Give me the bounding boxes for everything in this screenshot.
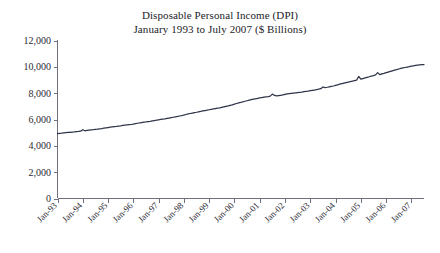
y-axis-tick-label: 10,000 xyxy=(24,61,52,72)
y-axis-tick-label: 8,000 xyxy=(29,88,52,99)
x-axis-tick-label: Jan-99 xyxy=(187,200,211,224)
x-axis-tick-label: Jan-94 xyxy=(60,200,84,224)
x-axis-tick-label: Jan-97 xyxy=(136,200,160,224)
x-axis-tick-label: Jan-03 xyxy=(288,200,312,224)
dpi-line-chart: Disposable Personal Income (DPI) January… xyxy=(0,0,440,253)
y-axis-labels: 12,00010,0008,0006,0004,0002,0000 xyxy=(24,35,52,204)
y-axis-tick-label: 6,000 xyxy=(29,114,52,125)
x-axis-tick-label: Jan-02 xyxy=(262,200,286,224)
chart-svg: 12,00010,0008,0006,0004,0002,0000 Jan-93… xyxy=(0,0,440,253)
x-axis-tick-label: Jan-95 xyxy=(85,200,109,224)
y-axis-tick-label: 4,000 xyxy=(29,140,52,151)
x-axis-tick-label: Jan-07 xyxy=(389,200,413,224)
y-axis-tick-label: 12,000 xyxy=(24,35,52,46)
y-axis-tick-label: 2,000 xyxy=(29,167,52,178)
y-axis-ticks xyxy=(54,42,58,200)
dpi-series-line xyxy=(58,65,425,134)
x-axis-labels: Jan-93Jan-94Jan-95Jan-96Jan-97Jan-98Jan-… xyxy=(35,200,413,224)
x-axis-tick-label: Jan-05 xyxy=(338,200,362,224)
x-axis-tick-label: Jan-98 xyxy=(161,200,185,224)
x-axis-tick-label: Jan-06 xyxy=(363,200,387,224)
x-axis-tick-label: Jan-04 xyxy=(313,200,337,224)
x-axis-ticks xyxy=(59,199,412,203)
x-axis-tick-label: Jan-00 xyxy=(212,200,236,224)
plot-area: 12,00010,0008,0006,0004,0002,0000 Jan-93… xyxy=(0,0,440,253)
x-axis-tick-label: Jan-96 xyxy=(111,200,135,224)
x-axis-tick-label: Jan-01 xyxy=(237,200,261,224)
